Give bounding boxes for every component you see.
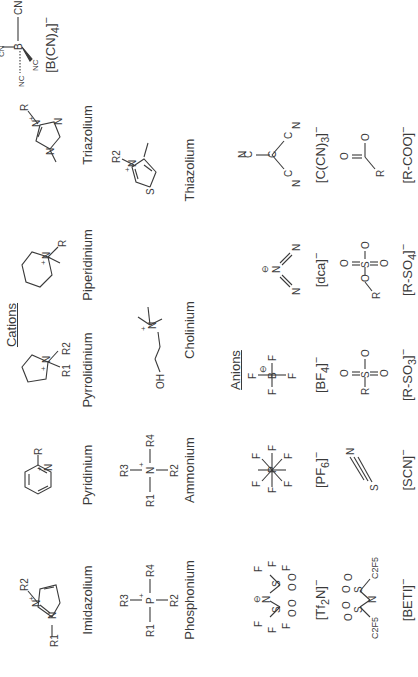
svg-text:B: B <box>267 372 278 379</box>
svg-text:F: F <box>267 561 278 567</box>
svg-text:R1: R1 <box>61 364 72 377</box>
svg-text:C: C <box>283 132 294 139</box>
svg-text:F: F <box>267 487 278 493</box>
svg-text:F: F <box>267 355 278 361</box>
svg-text:N: N <box>237 151 248 158</box>
tf2n-structure: F F F S N ⊖ S F F F O O O O <box>252 561 298 633</box>
bf4-structure: B ⊖ F F F F <box>247 355 298 395</box>
svg-text:R3: R3 <box>119 464 130 477</box>
svg-text:O: O <box>339 369 350 377</box>
svg-text:R: R <box>360 388 371 395</box>
svg-text:R4: R4 <box>145 434 156 447</box>
svg-text:R: R <box>375 170 386 177</box>
ionic-liquid-ions-figure: Cations Anions Imidazolium Pyridinium Py… <box>0 0 418 677</box>
svg-text:F: F <box>267 389 278 395</box>
svg-text:P: P <box>145 597 156 604</box>
svg-text:+: + <box>39 366 48 371</box>
svg-text:NC: NC <box>31 59 40 71</box>
svg-text:C: C <box>283 170 294 177</box>
svg-text:O: O <box>360 349 371 357</box>
svg-text:F: F <box>287 373 298 379</box>
svg-text:S: S <box>271 606 282 613</box>
triazolium-structure: N N + N R <box>19 104 64 162</box>
svg-text:R2: R2 <box>61 342 72 355</box>
svg-text:O: O <box>287 599 298 607</box>
svg-text:C: C <box>267 151 278 158</box>
svg-text:N: N <box>291 288 302 295</box>
svg-text:S: S <box>353 606 364 613</box>
svg-text:F: F <box>253 621 264 627</box>
svg-text:F: F <box>253 566 264 572</box>
svg-text:+: + <box>27 596 36 601</box>
svg-text:F: F <box>283 481 294 487</box>
svg-text:P: P <box>267 466 278 473</box>
r-so4-structure: R O S O O O <box>339 241 390 299</box>
svg-text:+: + <box>139 326 148 331</box>
piperidinium-structure: + N R <box>22 240 68 287</box>
svg-text:CN: CN <box>0 45 6 57</box>
svg-text:S: S <box>360 371 371 378</box>
svg-text:+: + <box>137 462 146 467</box>
svg-text:N: N <box>45 148 56 155</box>
svg-text:N: N <box>147 322 158 329</box>
svg-text:C2F5: C2F5 <box>370 557 380 579</box>
svg-text:O: O <box>360 241 371 249</box>
svg-text:O: O <box>287 573 298 581</box>
svg-text:N: N <box>53 118 64 125</box>
svg-text:R: R <box>33 448 44 455</box>
svg-text:F: F <box>267 445 278 451</box>
svg-text:R2: R2 <box>19 578 30 591</box>
imidazolium-structure: N N + R1 R2 <box>19 578 60 647</box>
svg-text:N: N <box>41 356 52 363</box>
svg-text:F: F <box>283 453 294 459</box>
svg-text:+: + <box>137 593 146 598</box>
svg-text:N: N <box>291 122 302 129</box>
svg-text:N: N <box>291 180 302 187</box>
svg-text:S: S <box>353 586 364 593</box>
svg-text:R1: R1 <box>145 624 156 637</box>
svg-text:R1: R1 <box>145 494 156 507</box>
beti-structure: S N S C2F5 C2F5 O O O O <box>341 557 380 639</box>
r-so3-structure: S R O O O <box>339 349 390 395</box>
svg-text:R: R <box>57 240 68 247</box>
svg-text:NC: NC <box>17 75 26 87</box>
scn-structure: S N <box>345 448 380 491</box>
svg-text:O: O <box>339 152 350 160</box>
svg-text:F: F <box>281 623 292 629</box>
svg-text:O: O <box>360 133 371 141</box>
phosphonium-structure: P + R1 R4 R3 R2 <box>119 564 180 637</box>
svg-text:R: R <box>19 104 30 111</box>
svg-text:+: + <box>27 116 36 121</box>
svg-text:F: F <box>251 481 262 487</box>
svg-text:+: + <box>39 260 48 265</box>
ammonium-structure: N + R1 R4 R3 R2 <box>119 434 180 507</box>
svg-text:O: O <box>379 369 390 377</box>
svg-text:N: N <box>41 252 52 259</box>
svg-text:R1: R1 <box>49 634 60 647</box>
svg-text:O: O <box>360 274 371 282</box>
svg-text:S: S <box>369 484 380 491</box>
tricyanomethanide-structure: C C N C C N N <box>237 122 302 187</box>
svg-text:R2: R2 <box>111 150 122 163</box>
svg-text:N: N <box>127 160 138 167</box>
svg-text:S: S <box>145 188 156 195</box>
svg-text:N: N <box>145 467 156 474</box>
dca-structure: N ⊖ N N <box>260 244 302 295</box>
svg-text:CN: CN <box>13 1 24 15</box>
svg-text:R4: R4 <box>145 564 156 577</box>
svg-text:N: N <box>271 266 282 273</box>
svg-text:R2: R2 <box>169 594 180 607</box>
pyrrolidinium-structure: + N R1 R2 <box>22 342 72 382</box>
svg-text:N: N <box>47 612 58 619</box>
svg-text:B: B <box>13 43 24 50</box>
pyridinium-structure: + N R <box>25 448 54 494</box>
cholinium-structure: N + OH <box>138 307 166 389</box>
svg-text:R: R <box>371 292 382 299</box>
thiazolium-structure: S N + R2 <box>111 143 156 195</box>
svg-text:N: N <box>261 596 272 603</box>
svg-text:O: O <box>343 613 354 621</box>
svg-text:N: N <box>291 244 302 251</box>
svg-text:O: O <box>287 583 298 591</box>
svg-text:N: N <box>43 464 54 471</box>
svg-text:O: O <box>287 609 298 617</box>
